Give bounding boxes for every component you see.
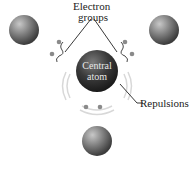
diagram-graphics — [0, 0, 194, 171]
outer-atom-upper-right — [149, 15, 179, 45]
vsepr-diagram: Electron groups Central atom Repulsions — [0, 0, 194, 171]
label-central: Central — [77, 61, 117, 71]
label-repulsions: Repulsions — [140, 97, 189, 109]
outer-atom-upper-left — [9, 15, 39, 45]
label-electron-groups-line2: groups — [78, 11, 108, 23]
outer-atom-bottom — [82, 126, 112, 156]
label-atom: atom — [77, 72, 117, 82]
